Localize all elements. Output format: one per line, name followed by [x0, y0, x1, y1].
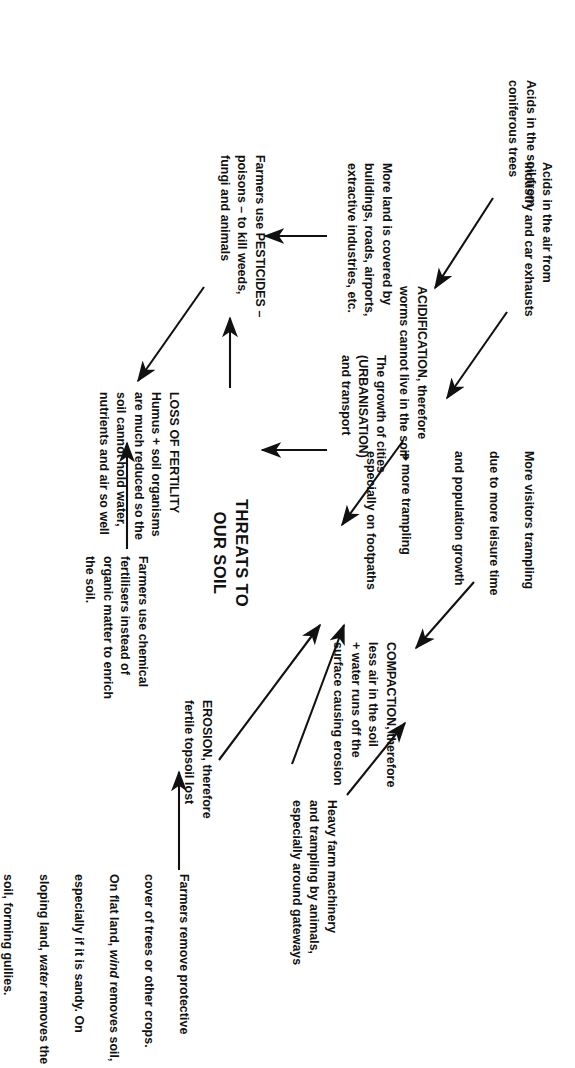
farmers-remove-line-3c: removes soil, — [107, 978, 121, 1061]
farmers-remove-line-5: sloping land, water removes the — [34, 874, 52, 1068]
edge-pesticides-to-loss-of-fertility — [138, 287, 204, 381]
node-loss-of-fertility: LOSS OF FERTILITY Humus + soil organisms… — [94, 392, 182, 582]
farmers-remove-line-3a: On flat land, — [107, 874, 121, 950]
visitors-trampling-line-2: due to more leisure time — [485, 451, 503, 651]
farmers-remove-line-5a: sloping land, — [37, 874, 51, 955]
node-visitors-trampling: More visitors trampling due to more leis… — [344, 451, 555, 651]
node-land-covered: More land is covered by buildings, roads… — [342, 163, 395, 363]
visitors-trampling-line-3: and population growth — [449, 451, 467, 651]
edge-acids-air-to-acidification — [447, 312, 507, 398]
farmers-remove-line-1: Farmers remove protective — [175, 874, 193, 1068]
farmers-remove-line-6: soil, forming gullies. — [0, 874, 16, 1068]
node-acids-coniferous: Acids in the soil from coniferous trees — [504, 80, 539, 230]
farmers-remove-water-emphasis: water — [37, 955, 51, 988]
node-erosion: EROSION, therefore fertile topsoil lost — [180, 700, 215, 860]
edge-acids-coniferous-to-acidification — [435, 198, 493, 288]
node-heavy-machinery: Heavy farm machinery and trampling by an… — [287, 800, 340, 1000]
farmers-remove-line-2: cover of trees or other crops. — [140, 874, 158, 1068]
node-farmers-remove: Farmers remove protective cover of trees… — [0, 874, 210, 1068]
visitors-trampling-line-1: More visitors trampling — [520, 451, 538, 651]
farmers-remove-wind-emphasis: wind — [107, 950, 121, 978]
visitors-trampling-line-5: especially on footpaths — [361, 451, 379, 651]
node-acidification: ACIDIFICATION, therefore worms cannot li… — [395, 286, 430, 476]
node-pesticides: Farmers use PESTICIDES – poisons – to ki… — [215, 155, 268, 330]
farmers-remove-line-5c: removes the — [37, 987, 51, 1064]
right-arrow-bullet-icon: ➔ — [397, 451, 415, 464]
page-title: THREATS TO OUR SOIL — [208, 478, 253, 628]
node-chemical-fertilisers: Farmers use chemical fertilisers instead… — [81, 556, 151, 731]
farmers-remove-line-3: On flat land, wind removes soil, — [104, 874, 122, 1068]
farmers-remove-line-4: especially if it is sandy. On — [69, 874, 87, 1068]
visitors-trampling-line-4-wrap: ➔more trampling — [397, 451, 432, 651]
visitors-trampling-line-4: more trampling — [399, 464, 413, 555]
edge-erosion-to-title — [219, 625, 320, 760]
